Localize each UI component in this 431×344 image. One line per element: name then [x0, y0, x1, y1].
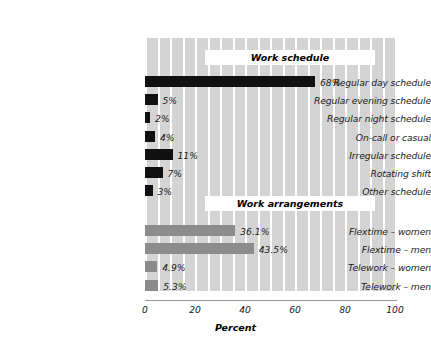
bar-value-label: 7%	[168, 168, 183, 179]
bar-value-label: 5.3%	[163, 281, 186, 292]
bar-chart: Work schedule Work arrangements Regular …	[0, 0, 431, 344]
category-label: Flextime – men	[294, 244, 431, 255]
bar	[145, 76, 315, 87]
bar	[145, 112, 150, 123]
x-tick-label: 80	[339, 304, 351, 315]
bar	[145, 149, 173, 160]
bar	[145, 167, 163, 178]
x-tick-label: 20	[189, 304, 201, 315]
group-banner-work-schedule: Work schedule	[205, 50, 375, 65]
bar-value-label: 43.5%	[259, 244, 288, 255]
bar-value-label: 4%	[160, 132, 175, 143]
category-label: Telework – women	[294, 262, 431, 273]
category-label: Regular evening schedule	[294, 95, 431, 106]
bar	[145, 185, 153, 196]
x-tick-label: 0	[142, 304, 148, 315]
bar-value-label: 68%	[320, 77, 340, 88]
category-label: Telework – men	[294, 281, 431, 292]
bar-value-label: 5%	[163, 95, 178, 106]
bar	[145, 243, 254, 254]
bar-value-label: 36.1%	[240, 226, 269, 237]
category-label: Other schedule	[294, 186, 431, 197]
bar	[145, 261, 157, 272]
category-label: Irregular schedule	[294, 150, 431, 161]
x-tick-label: 100	[386, 304, 404, 315]
bar-value-label: 3%	[158, 186, 173, 197]
x-axis-line	[145, 300, 397, 301]
bar	[145, 131, 155, 142]
category-label: Flextime – women	[294, 226, 431, 237]
category-label: On-call or casual	[294, 132, 431, 143]
x-tick-label: 40	[239, 304, 251, 315]
group-banner-work-arrangements: Work arrangements	[205, 196, 375, 211]
bar-value-label: 2%	[155, 113, 170, 124]
bar	[145, 225, 235, 236]
x-axis-title: Percent	[0, 322, 431, 333]
bar	[145, 94, 158, 105]
bar	[145, 280, 158, 291]
bar-value-label: 11%	[178, 150, 198, 161]
x-tick-label: 60	[289, 304, 301, 315]
category-label: Regular night schedule	[294, 113, 431, 124]
bar-value-label: 4.9%	[162, 262, 185, 273]
category-label: Rotating shift	[294, 168, 431, 179]
